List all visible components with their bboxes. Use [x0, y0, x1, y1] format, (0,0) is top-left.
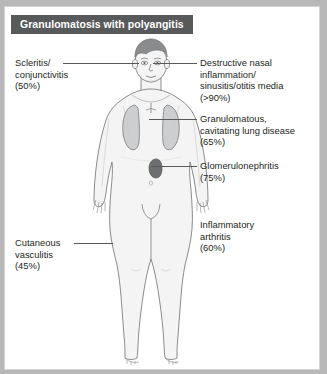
label-lung-disease: Granulomatous, cavitating lung disease (… [200, 113, 316, 148]
label-nasal-inflammation: Destructive nasal inflammation/ sinusiti… [200, 57, 316, 103]
label-cutaneous-vasculitis: Cutaneous vasculitis (45%) [15, 237, 81, 272]
leader-line-kidney [151, 166, 197, 167]
leader-line-nasal [153, 63, 197, 64]
leader-line-lung [149, 119, 197, 120]
label-glomerulonephritis: Glomerulonephritis (75%) [200, 160, 316, 183]
label-inflammatory-arthritis: Inflammatory arthritis (60%) [200, 219, 310, 254]
body-outline [93, 77, 209, 365]
head [132, 39, 169, 82]
figure-panel: Granulomatosis with polyangitis [4, 6, 320, 370]
label-scleritis: Scleritis/ conjunctivitis (50%) [15, 57, 79, 92]
kidney-organ [149, 159, 162, 178]
